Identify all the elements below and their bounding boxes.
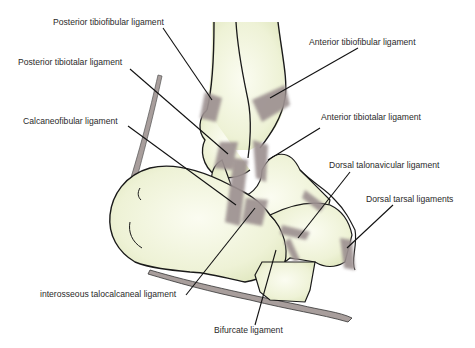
label-posterior-tibiofibular: Posterior tibiofibular ligament [53,17,164,27]
label-bifurcate: Bifurcate ligament [214,325,283,335]
label-dorsal-talonavicular: Dorsal talonavicular ligament [329,160,439,170]
ligament-anterior-tibiotalar [253,140,268,182]
label-calcaneofibular: Calcaneofibular ligament [23,116,118,126]
ankle-ligament-diagram: Posterior tibiofibular ligament Posterio… [0,0,475,348]
label-interosseous-talocalcaneal: interosseous talocalcaneal ligament [40,289,176,299]
label-anterior-tibiofibular: Anterior tibiofibular ligament [309,37,416,47]
label-dorsal-tarsal: Dorsal tarsal ligaments [366,194,453,204]
label-anterior-tibiotalar: Anterior tibiotalar ligament [321,112,421,122]
label-posterior-tibiotalar: Posterior tibiotalar ligament [18,57,122,67]
